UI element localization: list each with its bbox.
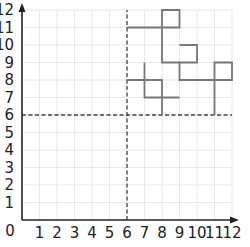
x-tick-label: 10 [187, 224, 206, 242]
x-tick-label: 9 [175, 224, 185, 242]
y-tick-label: 5 [4, 124, 14, 142]
y-tick-label: 6 [4, 106, 14, 124]
x-tick-label: 8 [157, 224, 167, 242]
x-tick-label: 12 [222, 224, 241, 242]
shape-right [180, 45, 233, 115]
y-axis-arrow-icon [19, 3, 26, 12]
x-axis-tick-labels: 123456789101112 [35, 224, 242, 242]
x-tick-label: 5 [105, 224, 115, 242]
coordinate-grid: 123456789101112 123456789101112 0 [0, 0, 250, 247]
y-tick-label: 3 [4, 159, 14, 177]
y-tick-label: 10 [0, 36, 14, 54]
y-tick-label: 4 [4, 141, 14, 159]
x-tick-label: 2 [52, 224, 62, 242]
shape-top [127, 10, 180, 63]
y-tick-label: 9 [4, 54, 14, 72]
x-tick-label: 6 [122, 224, 132, 242]
y-tick-label: 11 [0, 19, 14, 37]
y-tick-label: 8 [4, 71, 14, 89]
x-tick-label: 11 [205, 224, 224, 242]
x-tick-label: 1 [35, 224, 45, 242]
axes [19, 3, 240, 224]
x-axis-arrow-icon [230, 217, 239, 224]
y-tick-label: 12 [0, 1, 14, 19]
x-tick-label: 7 [140, 224, 150, 242]
origin-label: 0 [5, 222, 15, 240]
y-axis-tick-labels: 123456789101112 [0, 1, 14, 212]
x-tick-label: 3 [70, 224, 80, 242]
y-tick-label: 1 [4, 194, 14, 212]
y-tick-label: 2 [4, 176, 14, 194]
y-tick-label: 7 [4, 89, 14, 107]
x-tick-label: 4 [87, 224, 97, 242]
